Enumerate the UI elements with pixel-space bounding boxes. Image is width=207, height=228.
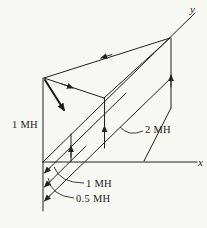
triangle-top-arrow-icon [101, 55, 112, 59]
triangle-lower-arrow-icon [62, 84, 73, 88]
middle-inductor-leader [54, 167, 84, 183]
diagonal-wire-2 [49, 146, 86, 183]
y-axis-label: y [189, 3, 195, 15]
middle-inductor-label: 1 MH [86, 178, 112, 189]
right-inductor-label: 2 MH [145, 124, 171, 135]
apex-bold-arrow-icon [45, 80, 64, 110]
triangle-lower-side [44, 78, 104, 98]
diagonal-wire-3-arrow-icon [45, 196, 51, 202]
diagram-page: y x 1 MH 2 MH 1 MH 0.5 MH [0, 0, 207, 228]
diagonal-wire-1-arrow-icon [45, 168, 51, 174]
y-axis-line [43, 13, 195, 162]
bottom-inductor-label: 0.5 MH [76, 193, 111, 204]
left-inductor-label: 1 MH [12, 119, 38, 130]
right-inductor-leader [120, 127, 143, 133]
figure-canvas: y x 1 MH 2 MH 1 MH 0.5 MH [0, 0, 207, 228]
x-axis-label: x [197, 156, 203, 168]
triangle-top-side [44, 38, 170, 78]
